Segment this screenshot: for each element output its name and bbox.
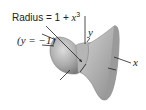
radius-label-prefix: Radius [12, 12, 43, 23]
y-axis-label: y [88, 27, 93, 38]
x-axis-label: x [133, 57, 138, 68]
radius-label: Radius = 1 + x3 [12, 11, 80, 24]
axis-line-label: (y = −1) [17, 35, 55, 46]
radius-label-eq: = 1 + [46, 12, 72, 23]
radius-label-exponent: 3 [76, 11, 80, 18]
y-tick [87, 38, 90, 42]
solid-of-revolution-figure: Radius = 1 + x3 (y = −1) y x [0, 0, 146, 110]
